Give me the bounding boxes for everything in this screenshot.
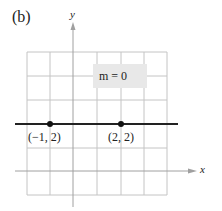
x-axis-label: x	[200, 163, 205, 175]
point-label-neg1-2: (−1, 2)	[28, 130, 61, 145]
point-label-2-2: (2, 2)	[108, 130, 134, 145]
point-neg1-2	[47, 121, 53, 127]
y-axis-label: y	[70, 8, 75, 20]
panel-label: (b)	[12, 8, 31, 26]
graph	[0, 0, 222, 211]
point-2-2	[118, 121, 124, 127]
axes	[15, 22, 197, 207]
slope-annotation: m = 0	[99, 69, 127, 84]
